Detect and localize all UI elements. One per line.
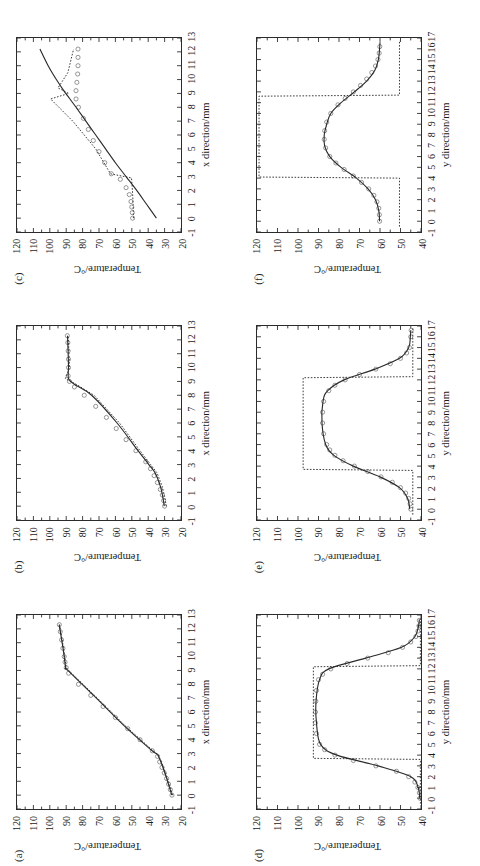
x-axis-label-text: x direction/mm [200, 680, 211, 744]
y-tick-label: 120 [251, 527, 262, 577]
chart-panel-e: (e)Temperature/°C405060708090100110120-1… [240, 289, 480, 578]
x-tick-label: 8 [426, 710, 437, 715]
y-tick-label: 70 [354, 527, 365, 577]
x-tick-label: 12 [426, 86, 437, 96]
x-tick-label: 14 [426, 642, 437, 652]
series-bi-layer-model-line [40, 49, 156, 218]
y-tick-label: 120 [251, 816, 262, 866]
y-tick-label: 120 [11, 527, 22, 577]
y-tick-label: 60 [110, 527, 121, 577]
y-tick-label: 20 [177, 239, 188, 289]
series-one-dimensional-line [60, 625, 173, 795]
x-tick-label: 7 [186, 118, 197, 123]
y-tick-label: 50 [127, 239, 138, 289]
y-tick-label: 40 [417, 816, 428, 866]
x-tick-label: 5 [186, 724, 197, 729]
x-axis-label-text: x direction/mm [200, 391, 211, 455]
x-tick-label: 1 [186, 780, 197, 785]
y-tick-label: 110 [27, 239, 38, 289]
plot-canvas [257, 326, 421, 520]
x-tick-label: 9 [186, 379, 197, 384]
y-tick-label: 20 [177, 816, 188, 866]
x-tick-label: 3 [186, 752, 197, 757]
y-tick-label: 60 [375, 816, 386, 866]
x-tick-label: 4 [426, 464, 437, 469]
plot-area-d [256, 614, 422, 810]
axis-ticks [257, 38, 421, 232]
x-axis-label-c: x direction/mm [200, 37, 211, 233]
figure-rotation-wrapper: (a)Temperature/°C20304050607080901001101… [0, 0, 480, 866]
y-tick-label: 110 [271, 816, 282, 866]
x-tick-label: 4 [186, 160, 197, 165]
x-tick-label: 5 [426, 165, 437, 170]
x-tick-label: 1 [426, 497, 437, 502]
x-tick-label: 17 [426, 609, 437, 619]
x-tick-label: 16 [426, 331, 437, 341]
y-tick-label: 100 [44, 527, 55, 577]
y-tick-label: 40 [143, 816, 154, 866]
plot-area-a [16, 614, 182, 810]
y-tick-label: 50 [396, 527, 407, 577]
x-tick-label: 0 [186, 216, 197, 221]
series-bi-layer-model-line [68, 336, 165, 506]
x-tick-label: 1 [186, 202, 197, 207]
x-tick-label: 7 [426, 143, 437, 148]
x-tick-label: 1 [186, 491, 197, 496]
y-tick-label: 80 [77, 527, 88, 577]
series-comsol-markers [57, 623, 174, 798]
x-tick-label: 0 [426, 508, 437, 513]
y-tick-label: 110 [271, 527, 282, 577]
y-tick-label: 30 [160, 239, 171, 289]
x-tick-label: 2 [426, 486, 437, 491]
x-tick-label: 10 [186, 362, 197, 372]
x-axis-label-text: y direction/mm [440, 680, 451, 744]
y-tick-label: 90 [313, 527, 324, 577]
y-tick-label: 120 [11, 239, 22, 289]
x-tick-label: 16 [426, 620, 437, 630]
y-axis-label-e: Temperature/°C [314, 552, 381, 563]
x-tick-label: 16 [426, 43, 437, 53]
x-tick-label: 14 [426, 353, 437, 363]
x-tick-label: 0 [426, 219, 437, 224]
y-tick-label: 90 [60, 239, 71, 289]
y-tick-label: 100 [292, 239, 303, 289]
x-tick-label: 7 [186, 407, 197, 412]
x-tick-label: 5 [186, 435, 197, 440]
plot-area-f [256, 37, 422, 233]
x-tick-label: 9 [426, 410, 437, 415]
y-tick-label: 60 [375, 527, 386, 577]
y-tick-label: 50 [127, 527, 138, 577]
y-axis-label-f: Temperature/°C [314, 264, 381, 275]
y-tick-label: 60 [110, 239, 121, 289]
x-tick-label: 10 [186, 651, 197, 661]
x-tick-label: 3 [426, 764, 437, 769]
series-bi-layer-model-line [316, 619, 420, 798]
axis-ticks [257, 326, 421, 520]
x-tick-label: 5 [426, 454, 437, 459]
series-one-dimensional-line [51, 49, 134, 218]
x-tick-label: 8 [186, 393, 197, 398]
y-tick-label: 80 [77, 816, 88, 866]
x-tick-label: 6 [186, 132, 197, 137]
x-tick-label: 17 [426, 32, 437, 42]
chart-panel-c: (c)Temperature/°C20304050607080901001101… [0, 0, 240, 289]
x-tick-label: 11 [186, 637, 197, 647]
x-tick-label: 11 [426, 97, 437, 107]
x-tick-label: 4 [186, 449, 197, 454]
series-comsol-markers [321, 329, 414, 512]
x-tick-label: 2 [426, 775, 437, 780]
x-tick-label: 3 [186, 463, 197, 468]
x-tick-label: 12 [186, 623, 197, 633]
x-tick-label: 7 [186, 696, 197, 701]
y-tick-label: 120 [11, 816, 22, 866]
x-tick-label: 15 [426, 53, 437, 63]
x-tick-label: 11 [186, 349, 197, 359]
x-tick-label: 4 [426, 753, 437, 758]
plot-canvas [257, 38, 421, 232]
series-comsol-markers [74, 47, 135, 220]
y-tick-label: 80 [334, 239, 345, 289]
x-tick-label: 14 [426, 64, 437, 74]
x-tick-label: 6 [186, 710, 197, 715]
x-tick-label: 13 [186, 32, 197, 42]
y-tick-label: 60 [375, 239, 386, 289]
